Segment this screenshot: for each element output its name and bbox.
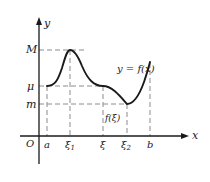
tick-label-xi1: ξ1 [65,140,75,152]
tick-label-xi2-subscript: 2 [127,144,131,152]
level-label-maximum: M [26,44,37,55]
level-label-minimum: m [26,99,36,110]
mean-value-theorem-figure: y x O M μ m a ξ1 ξ ξ2 b y = f(x) f(ξ) [0,0,210,182]
tick-label-xi1-subscript: 1 [71,144,75,152]
level-label-mean: μ [27,81,34,92]
function-curve [47,50,150,104]
tick-label-a: a [44,140,50,150]
curve-equation-label: y = f(x) [117,64,155,74]
tick-label-b: b [147,140,153,150]
origin-label: O [26,139,34,149]
y-axis-label: y [44,18,50,29]
x-axis-label: x [192,130,198,141]
tick-label-xi: ξ [100,140,106,150]
x-axis-arrow-icon [181,133,189,139]
y-axis-arrow-icon [36,17,42,25]
f-xi-label: f(ξ) [105,114,120,123]
tick-label-xi2: ξ2 [121,140,131,152]
